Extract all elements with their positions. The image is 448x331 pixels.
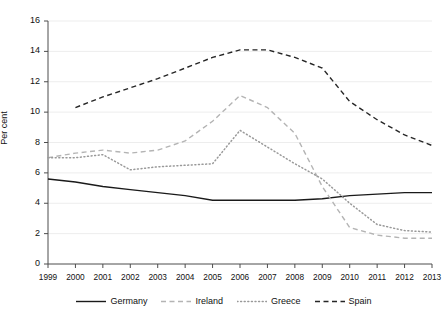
legend-item-germany[interactable]: Germany <box>76 296 147 306</box>
legend-item-greece[interactable]: Greece <box>237 296 301 306</box>
legend-item-ireland[interactable]: Ireland <box>161 296 223 306</box>
legend-label: Spain <box>349 296 372 306</box>
legend-label: Greece <box>271 296 301 306</box>
legend-label: Germany <box>110 296 147 306</box>
data-series-layer <box>48 50 432 238</box>
legend-swatch-ireland <box>161 297 191 306</box>
legend-swatch-spain <box>315 297 345 306</box>
axes <box>44 21 432 268</box>
gridlines <box>48 21 432 234</box>
series-line-germany <box>48 179 432 200</box>
series-line-greece <box>48 130 432 232</box>
legend-swatch-germany <box>76 297 106 306</box>
unemployment-line-chart: Per cent 0246810121416 19992000200120022… <box>0 0 448 331</box>
legend-swatch-greece <box>237 297 267 306</box>
legend-label: Ireland <box>195 296 223 306</box>
legend-item-spain[interactable]: Spain <box>315 296 372 306</box>
plot-area <box>0 0 448 331</box>
chart-legend: GermanyIrelandGreeceSpain <box>0 296 448 306</box>
series-line-spain <box>75 50 432 146</box>
series-line-ireland <box>48 95 432 238</box>
